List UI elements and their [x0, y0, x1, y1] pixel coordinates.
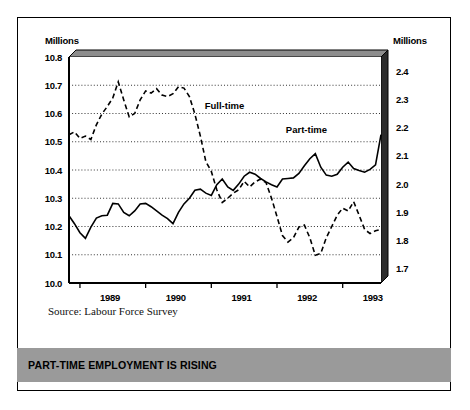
left-tick-label: 10.4 — [45, 165, 63, 176]
plot-bevel-top — [69, 50, 388, 57]
right-tick-label: 2.3 — [396, 94, 408, 105]
left-tick-label: 10.0 — [45, 278, 62, 289]
right-tick-label: 1.7 — [396, 263, 408, 274]
line-chart-svg: 10.010.110.210.310.410.510.610.710.81.71… — [0, 0, 470, 340]
x-axis-year-label: 1991 — [231, 292, 252, 303]
right-tick-label: 1.9 — [396, 207, 408, 218]
series-annotation: Part-time — [286, 124, 327, 135]
left-tick-label: 10.5 — [45, 136, 63, 147]
series-annotation: Full-time — [205, 100, 245, 111]
x-axis-year-label: 1992 — [297, 292, 317, 303]
left-tick-label: 10.6 — [45, 108, 62, 119]
right-tick-label: 2.4 — [396, 66, 409, 77]
chart-plot-area: 10.010.110.210.310.410.510.610.710.81.71… — [0, 0, 470, 340]
left-tick-label: 10.7 — [45, 80, 62, 91]
left-tick-label: 10.2 — [45, 221, 62, 232]
left-tick-label: 10.1 — [45, 249, 63, 260]
source-note: Source: Labour Force Survey — [48, 305, 178, 317]
left-tick-label: 10.8 — [45, 52, 62, 63]
right-tick-label: 1.8 — [396, 235, 408, 246]
x-axis-year-label: 1989 — [100, 292, 120, 303]
x-axis-year-label: 1990 — [166, 292, 186, 303]
x-axis-year-label: 1993 — [363, 292, 383, 303]
right-tick-label: 2.0 — [396, 179, 408, 190]
right-tick-label: 2.2 — [396, 122, 408, 133]
chart-page: Millions Millions 10.010.110.210.310.410… — [0, 0, 470, 410]
plot-bevel-right — [381, 50, 388, 283]
caption-banner: PART-TIME EMPLOYMENT IS RISING — [17, 348, 451, 382]
caption-banner-text: PART-TIME EMPLOYMENT IS RISING — [17, 359, 217, 371]
right-tick-label: 2.1 — [396, 150, 409, 161]
left-tick-label: 10.3 — [45, 193, 62, 204]
